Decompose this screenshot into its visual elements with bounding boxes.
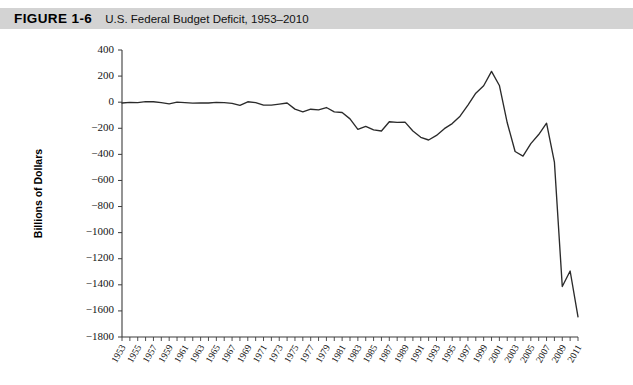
y-tick-label: 0: [109, 95, 115, 107]
x-tick-label: 2011: [565, 342, 584, 364]
figure-container: FIGURE 1-6 U.S. Federal Budget Deficit, …: [0, 0, 633, 385]
x-tick-label: 1957: [140, 342, 159, 364]
x-tick-label: 2005: [517, 342, 536, 364]
y-axis-title: Billions of Dollars: [32, 149, 44, 238]
y-tick-label: −1200: [86, 251, 115, 263]
x-tick-label: 1977: [297, 342, 316, 364]
x-tick-label: 1991: [407, 342, 426, 364]
x-tick-label: 1979: [313, 342, 332, 364]
figure-title-label: U.S. Federal Budget Deficit, 1953–2010: [105, 13, 308, 25]
y-tick-label: −1400: [86, 277, 115, 289]
line-chart: 4002000−200−400−600−800−1000−1200−1400−1…: [0, 29, 633, 385]
chart-plot-area: 4002000−200−400−600−800−1000−1200−1400−1…: [0, 29, 633, 385]
y-tick-label: −200: [91, 121, 114, 133]
x-tick-label: 2007: [533, 342, 552, 364]
y-tick-label: 200: [98, 69, 115, 81]
x-tick-label: 1995: [439, 342, 458, 364]
x-tick-label: 1965: [203, 342, 222, 364]
x-tick-label: 1959: [156, 342, 175, 364]
x-tick-label: 1961: [172, 342, 191, 364]
x-tick-label: 1997: [455, 342, 474, 364]
y-tick-label: −1000: [86, 225, 115, 237]
data-series-budget-deficit: [122, 71, 578, 316]
x-tick-label: 1993: [423, 342, 442, 364]
figure-header-band: FIGURE 1-6 U.S. Federal Budget Deficit, …: [0, 8, 633, 29]
y-axis-title-label: Billions of Dollars: [32, 149, 44, 238]
x-tick-label: 2009: [549, 342, 568, 364]
x-tick-label: 1967: [219, 342, 238, 364]
y-tick-label: −800: [91, 199, 114, 211]
x-tick-label: 2003: [502, 342, 521, 364]
y-axis: 4002000−200−400−600−800−1000−1200−1400−1…: [86, 43, 122, 342]
x-axis: 1953195519571959196119631965196719691971…: [109, 337, 584, 365]
x-tick-label: 1999: [470, 342, 489, 364]
x-tick-label: 1953: [109, 342, 128, 364]
x-tick-label: 1987: [376, 342, 395, 364]
x-tick-label: 1971: [250, 342, 269, 364]
x-tick-label: 1975: [282, 342, 301, 364]
figure-number-label: FIGURE 1-6: [14, 11, 92, 26]
x-tick-label: 1973: [266, 342, 285, 364]
x-tick-label: 2001: [486, 342, 505, 364]
x-tick-label: 1963: [187, 342, 206, 364]
x-tick-label: 1985: [360, 342, 379, 364]
data-line-budget-deficit: [122, 71, 578, 316]
y-tick-label: −400: [91, 147, 114, 159]
x-tick-label: 1989: [392, 342, 411, 364]
x-tick-label: 1969: [234, 342, 253, 364]
y-tick-label: −1600: [86, 303, 115, 315]
x-tick-label: 1981: [329, 342, 348, 364]
y-tick-label: −600: [91, 173, 114, 185]
y-tick-label: 400: [98, 43, 115, 55]
x-tick-label: 1983: [344, 342, 363, 364]
x-tick-label: 1955: [124, 342, 143, 364]
y-tick-label: −1800: [86, 330, 115, 342]
